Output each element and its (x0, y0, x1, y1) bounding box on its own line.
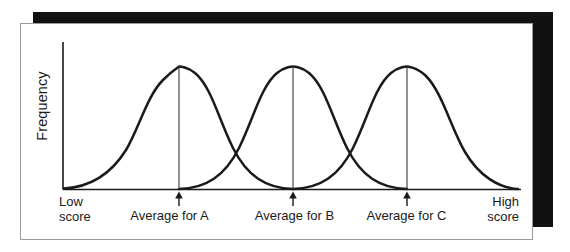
figure-root: Frequency Low score High score Average f… (0, 0, 570, 252)
y-axis-label: Frequency (34, 51, 50, 161)
curve-distribution-c (293, 67, 518, 190)
arrow-up-icon-b (289, 192, 297, 207)
x-axis-high-label-line1: High (429, 194, 519, 209)
marker-label-average-c: Average for C (319, 209, 494, 224)
plot-area: Frequency Low score High score Average f… (21, 24, 534, 241)
figure-panel: Frequency Low score High score Average f… (20, 23, 533, 240)
x-axis-low-label-line1: Low (59, 194, 91, 209)
arrow-up-icon-c (403, 192, 411, 207)
arrow-up-icon-a (175, 192, 183, 207)
